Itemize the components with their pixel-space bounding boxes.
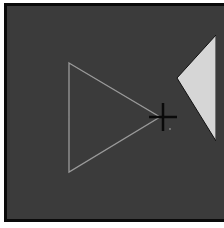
- small-dot: [169, 128, 171, 130]
- target-shape[interactable]: [177, 35, 216, 141]
- crosshair-cursor-icon: [149, 103, 177, 131]
- triangle-outline[interactable]: [69, 63, 160, 172]
- game-stage: [0, 0, 216, 228]
- scene-canvas: [0, 0, 216, 228]
